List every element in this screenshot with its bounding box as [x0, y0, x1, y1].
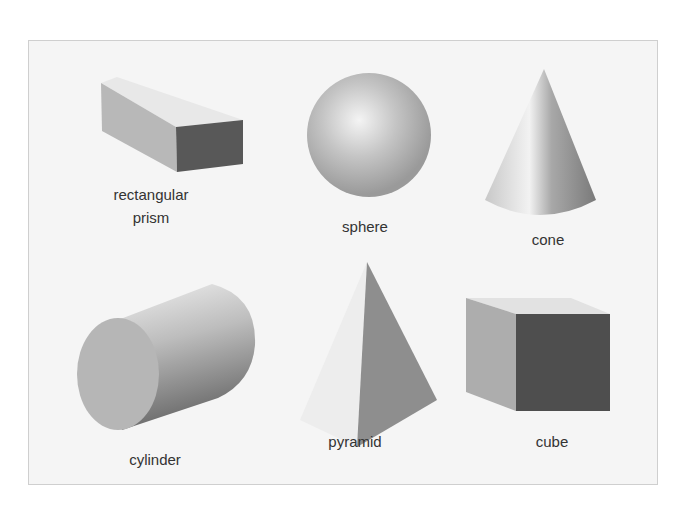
- cube-shape: [466, 298, 610, 411]
- rectangular-prism-label-line2: prism: [133, 208, 170, 228]
- sphere-label: sphere: [342, 217, 388, 237]
- pyramid-shape: [300, 262, 437, 447]
- rectangular-prism-label-line1: rectangular: [113, 185, 188, 205]
- cylinder-shape: [77, 284, 255, 430]
- sphere-shape: [307, 73, 431, 197]
- cylinder-label: cylinder: [129, 450, 181, 470]
- cube-label: cube: [536, 432, 569, 452]
- pyramid-label: pyramid: [328, 432, 381, 452]
- cone-shape: [485, 69, 596, 215]
- rectangular-prism-shape: [101, 77, 243, 172]
- cone-label: cone: [532, 230, 565, 250]
